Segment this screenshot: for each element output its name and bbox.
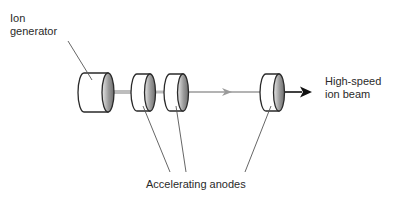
ion-generator-label-line2: generator	[10, 25, 57, 38]
ion-generator-label-line1: Ion	[10, 12, 57, 25]
accelerating-anodes-label: Accelerating anodes	[146, 178, 246, 191]
ion-generator-label: Ion generator	[10, 12, 57, 38]
anode-1-cylinder	[131, 74, 156, 111]
ion-generator-cylinder	[78, 73, 114, 112]
beam-segment-2	[155, 91, 164, 94]
anode-2-cylinder	[164, 74, 189, 111]
leader-anode-3	[245, 106, 271, 172]
ion-accelerator-diagram	[0, 0, 394, 202]
leader-anode-1	[143, 106, 170, 172]
high-speed-ion-beam-label: High-speed ion beam	[325, 75, 381, 101]
leader-anode-2	[176, 106, 186, 172]
beam-label-line2: ion beam	[325, 88, 381, 101]
anode-3-cylinder	[260, 74, 285, 111]
beam-label-line1: High-speed	[325, 75, 381, 88]
leader-ion-generator	[68, 41, 92, 80]
beam-segment-1	[114, 90, 131, 94]
